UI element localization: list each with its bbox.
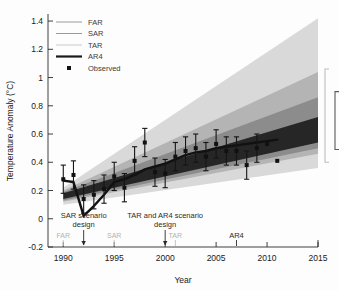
legend-label: Observed	[88, 64, 121, 73]
legend-label: SAR	[88, 29, 104, 38]
y-tick-label: 1	[38, 73, 43, 83]
x-tick-label: 2005	[207, 253, 226, 263]
y-tick-label: 0.6	[31, 129, 43, 139]
x-tick-label: 1995	[105, 253, 124, 263]
annotation-line-1: SAR scenario	[61, 211, 107, 220]
observed-marker	[255, 146, 259, 150]
scenario-marker-label: AR4	[229, 231, 244, 240]
observed-point	[275, 159, 279, 163]
observed-marker	[204, 155, 208, 159]
observed-marker	[112, 174, 116, 178]
annotation-line-2: design	[73, 220, 95, 229]
annotation-line-2: design	[154, 220, 176, 229]
x-axis-label: Year	[174, 275, 191, 285]
observed-marker	[184, 149, 188, 153]
observed-marker	[82, 197, 86, 201]
observed-marker	[122, 186, 126, 190]
y-tick-label: 0.4	[31, 157, 43, 167]
observed-marker	[194, 146, 198, 150]
observed-point	[265, 142, 269, 146]
y-tick-label: 0.8	[31, 101, 43, 111]
legend-swatch-marker	[67, 66, 71, 70]
observed-marker	[265, 142, 269, 146]
y-tick-label: 0	[38, 214, 43, 224]
observed-marker	[143, 141, 147, 145]
observed-marker	[71, 173, 75, 177]
scenario-marker-label: TAR	[169, 232, 182, 239]
observed-marker	[153, 170, 157, 174]
y-tick-label: -0.2	[28, 242, 43, 252]
legend-label: TAR	[88, 41, 103, 50]
y-tick-label: 1.2	[31, 44, 43, 54]
figure-container: -0.200.20.40.60.811.21.41990199520002005…	[0, 0, 339, 290]
observed-marker	[224, 149, 228, 153]
y-axis-label: Temperature Anomaly (°C)	[5, 81, 15, 181]
scenario-marker-label: SAR	[107, 232, 121, 239]
annotation-line-1: TAR and AR4 scenario	[127, 211, 203, 220]
x-tick-label: 2010	[258, 253, 277, 263]
observed-marker	[133, 159, 137, 163]
x-tick-label: 2015	[309, 253, 328, 263]
observed-marker	[61, 177, 65, 181]
x-tick-label: 2000	[156, 253, 175, 263]
observed-marker	[275, 159, 279, 163]
observed-marker	[234, 149, 238, 153]
legend-label: AR4	[88, 52, 103, 61]
y-tick-label: 1.4	[31, 16, 43, 26]
observed-marker	[214, 142, 218, 146]
legend-label: FAR	[88, 18, 103, 27]
chart-svg: -0.200.20.40.60.811.21.41990199520002005…	[0, 0, 339, 290]
observed-marker	[102, 187, 106, 191]
scenario-marker-label: FAR	[56, 232, 70, 239]
observed-marker	[92, 193, 96, 197]
observed-marker	[245, 163, 249, 167]
observed-marker	[173, 155, 177, 159]
observed-marker	[163, 172, 167, 176]
x-tick-label: 1990	[54, 253, 73, 263]
y-tick-label: 0.2	[31, 186, 43, 196]
